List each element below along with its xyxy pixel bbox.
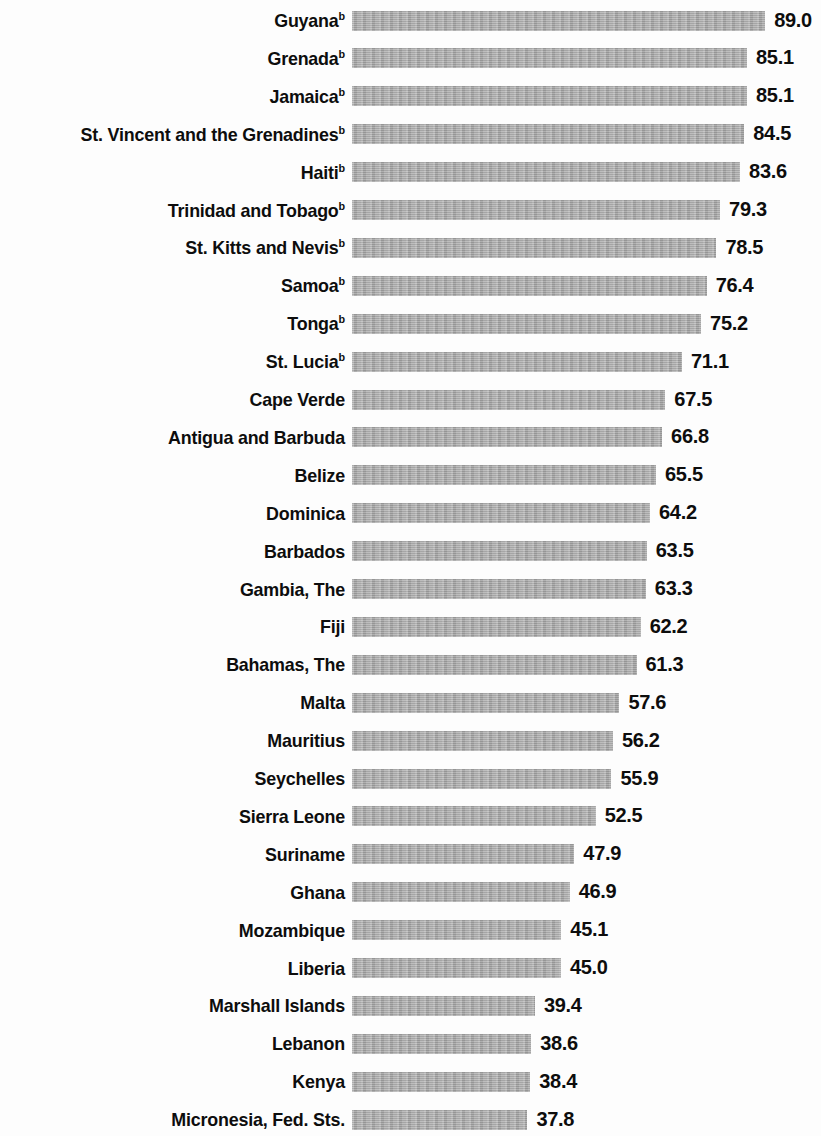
bar-row: Bahamas, The61.3 (0, 646, 821, 684)
value-label: 64.2 (659, 502, 697, 522)
category-label: Haitib (21, 162, 345, 183)
value-label: 47.9 (583, 843, 621, 863)
bar (352, 996, 535, 1016)
bar-row: Samoab76.4 (0, 267, 821, 305)
value-label: 85.1 (756, 85, 794, 105)
value-label: 85.1 (756, 47, 794, 67)
value-label: 89.0 (774, 10, 812, 30)
value-label: 83.6 (749, 161, 787, 181)
value-label: 76.4 (716, 275, 754, 295)
category-label: Cape Verde (21, 389, 345, 410)
category-label: Antigua and Barbuda (21, 427, 345, 448)
bar-row: Mozambique45.1 (0, 911, 821, 949)
value-label: 37.8 (536, 1109, 574, 1129)
value-label: 52.5 (605, 805, 643, 825)
bar (352, 844, 574, 864)
value-label: 67.5 (674, 389, 712, 409)
bar (352, 503, 650, 523)
value-label: 84.5 (753, 123, 791, 143)
category-label: Bahamas, The (21, 654, 345, 675)
bar-row: Antigua and Barbuda66.8 (0, 418, 821, 456)
bar-row: Malta57.6 (0, 684, 821, 722)
bar-row: Trinidad and Tobagob79.3 (0, 191, 821, 229)
bar (352, 579, 646, 599)
bar-row: Barbados63.5 (0, 532, 821, 570)
category-label: Ghana (21, 882, 345, 903)
category-label: Kenya (21, 1071, 345, 1092)
bar-row: Seychelles55.9 (0, 760, 821, 798)
bar (352, 806, 596, 826)
footnote-marker: b (339, 161, 345, 173)
bar-row: Fiji62.2 (0, 608, 821, 646)
bar (352, 11, 765, 31)
bar (352, 541, 647, 561)
bar-row: Kenya38.4 (0, 1063, 821, 1101)
value-label: 56.2 (622, 730, 660, 750)
bar (352, 352, 682, 372)
footnote-marker: b (339, 199, 345, 211)
bar-row: Mauritius56.2 (0, 722, 821, 760)
bar-row: Cape Verde67.5 (0, 381, 821, 419)
value-label: 78.5 (725, 237, 763, 257)
bar-row: St. Luciab71.1 (0, 343, 821, 381)
value-label: 75.2 (710, 313, 748, 333)
value-label: 63.3 (655, 578, 693, 598)
category-label: Guyanab (21, 10, 345, 31)
value-label: 38.6 (540, 1033, 578, 1053)
category-label: Gambia, The (21, 579, 345, 600)
bar-row: Grenadab85.1 (0, 39, 821, 77)
bar (352, 1110, 527, 1130)
footnote-marker: b (339, 48, 345, 60)
bar-row: Suriname47.9 (0, 835, 821, 873)
bar (352, 390, 665, 410)
category-label: Micronesia, Fed. Sts. (21, 1109, 345, 1130)
bar (352, 1034, 531, 1054)
value-label: 46.9 (579, 881, 617, 901)
bar (352, 314, 701, 334)
footnote-marker: b (339, 123, 345, 135)
value-label: 62.2 (650, 616, 688, 636)
value-label: 66.8 (671, 426, 709, 446)
category-label: Belize (21, 465, 345, 486)
category-label: Fiji (21, 616, 345, 637)
value-label: 71.1 (691, 351, 729, 371)
bar (352, 124, 744, 144)
bar (352, 238, 716, 258)
value-label: 63.5 (656, 540, 694, 560)
bar (352, 427, 662, 447)
category-label: Lebanon (21, 1033, 345, 1054)
bar (352, 958, 561, 978)
category-label: Trinidad and Tobagob (21, 200, 345, 221)
category-label: Grenadab (21, 48, 345, 69)
bar-row: Gambia, The63.3 (0, 570, 821, 608)
bar-row: Marshall Islands39.4 (0, 987, 821, 1025)
footnote-marker: b (339, 237, 345, 249)
bar-row: Tongab75.2 (0, 305, 821, 343)
bar (352, 465, 656, 485)
bar-row: Dominica64.2 (0, 494, 821, 532)
category-label: Marshall Islands (21, 995, 345, 1016)
bar-row: Micronesia, Fed. Sts.37.8 (0, 1101, 821, 1136)
value-label: 39.4 (544, 995, 582, 1015)
bar (352, 920, 561, 940)
value-label: 45.0 (570, 957, 608, 977)
bar (352, 1072, 530, 1092)
bar (352, 731, 613, 751)
footnote-marker: b (339, 313, 345, 325)
bar (352, 617, 641, 637)
bar (352, 655, 637, 675)
bar-row: Sierra Leone52.5 (0, 797, 821, 835)
bar-row: St. Vincent and the Grenadinesb84.5 (0, 115, 821, 153)
value-label: 61.3 (646, 654, 684, 674)
footnote-marker: b (339, 351, 345, 363)
category-label: Sierra Leone (21, 806, 345, 827)
bar (352, 882, 570, 902)
category-label: Jamaicab (21, 86, 345, 107)
category-label: Suriname (21, 844, 345, 865)
bar (352, 769, 611, 789)
category-label: St. Kitts and Nevisb (21, 237, 345, 258)
category-label: Liberia (21, 958, 345, 979)
bar (352, 200, 720, 220)
category-label: St. Vincent and the Grenadinesb (21, 124, 345, 145)
value-label: 79.3 (729, 199, 767, 219)
